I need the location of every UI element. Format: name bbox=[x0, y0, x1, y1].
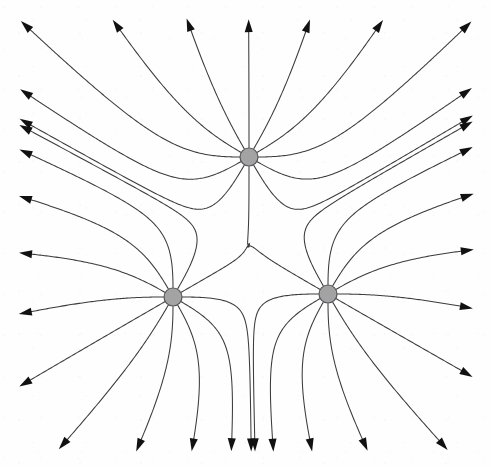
field-line bbox=[25, 128, 197, 289]
arrowhead-icon bbox=[459, 88, 472, 99]
arrowhead-icon bbox=[459, 367, 472, 377]
arrowhead-icon bbox=[302, 20, 310, 34]
field-line bbox=[302, 302, 323, 445]
arrowhead-icon bbox=[459, 122, 472, 132]
arrowhead-icon bbox=[306, 438, 314, 452]
field-line bbox=[26, 152, 173, 287]
arrowhead-icon bbox=[245, 19, 253, 32]
field-line bbox=[254, 26, 308, 149]
point-charge-left bbox=[164, 288, 182, 306]
field-line bbox=[333, 302, 443, 445]
field-line bbox=[333, 196, 467, 286]
field-line bbox=[189, 25, 244, 149]
field-line bbox=[338, 294, 467, 307]
field-line bbox=[248, 167, 250, 246]
arrowhead-icon bbox=[187, 18, 195, 32]
arrowhead-icon bbox=[19, 308, 33, 316]
field-line-group bbox=[25, 25, 467, 445]
field-line-figure: Electric field lines of three equal posi… bbox=[0, 0, 491, 467]
arrowhead-icon bbox=[459, 302, 473, 310]
arrowhead-icon bbox=[268, 438, 276, 451]
charge-group bbox=[164, 148, 337, 306]
field-line bbox=[178, 305, 200, 444]
point-charge-right bbox=[319, 285, 337, 303]
arrowhead-icon bbox=[113, 20, 124, 33]
field-line bbox=[254, 119, 467, 209]
arrowhead-icon bbox=[459, 147, 472, 156]
arrowhead-icon bbox=[190, 438, 198, 451]
arrowhead-icon bbox=[19, 125, 32, 135]
field-line bbox=[26, 254, 165, 293]
arrowhead-icon bbox=[20, 89, 33, 100]
arrowhead-icon bbox=[460, 194, 474, 202]
arrowhead-icon bbox=[372, 20, 383, 33]
field-line bbox=[181, 302, 232, 445]
arrowhead-icon bbox=[359, 437, 368, 451]
field-line bbox=[328, 150, 467, 284]
field-line bbox=[63, 305, 168, 444]
arrowhead-icon bbox=[19, 196, 33, 204]
field-line bbox=[26, 93, 241, 179]
field-line bbox=[253, 294, 318, 445]
field-line bbox=[336, 299, 466, 374]
field-line bbox=[26, 122, 245, 209]
field-line bbox=[181, 244, 249, 292]
field-line bbox=[25, 198, 168, 289]
field-line bbox=[336, 250, 467, 289]
arrowhead-icon bbox=[136, 438, 145, 452]
field-line-canvas: Electric field lines of three equal posi… bbox=[0, 0, 491, 467]
arrowhead-icon bbox=[19, 250, 32, 258]
point-charge-top bbox=[240, 148, 258, 166]
arrowhead-icon bbox=[19, 376, 32, 386]
arrowhead-icon bbox=[19, 149, 32, 158]
field-line bbox=[257, 25, 379, 152]
arrowhead-icon bbox=[228, 438, 236, 451]
field-line bbox=[139, 307, 173, 446]
arrowhead-icon bbox=[460, 247, 473, 255]
field-line bbox=[183, 297, 252, 445]
field-line bbox=[25, 297, 163, 313]
field-line bbox=[26, 26, 240, 157]
field-line bbox=[270, 299, 319, 445]
field-line bbox=[248, 246, 320, 290]
field-line bbox=[25, 302, 165, 383]
field-line bbox=[117, 25, 241, 152]
